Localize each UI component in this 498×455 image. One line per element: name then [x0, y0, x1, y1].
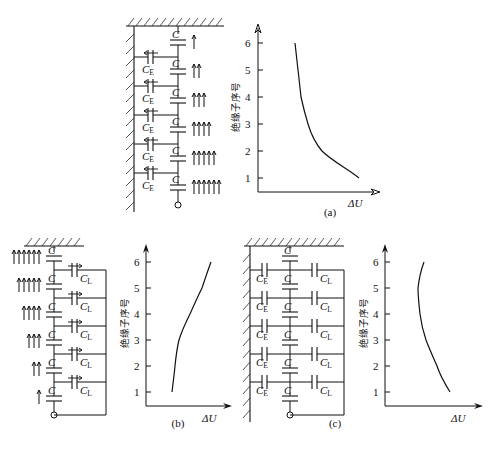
cap-label-series: C [48, 328, 56, 340]
cap-label-line: CL [80, 272, 92, 286]
y-ticks-b [146, 262, 151, 392]
y-tick-label: 4 [373, 308, 379, 320]
cap-label-line: CL [80, 356, 92, 370]
y-tick-label: 6 [373, 256, 379, 268]
y-tick-label: 1 [134, 386, 140, 398]
y-axis-title: 绝缘子序号 [230, 82, 241, 132]
data-curve-c [418, 262, 450, 392]
cap-label-line: CL [320, 328, 332, 342]
y-tick-label: 3 [134, 334, 140, 346]
circuit-diagram-a: C C C C C C [120, 12, 230, 217]
cap-label-line: CL [320, 300, 332, 314]
y-tick-label: 4 [245, 91, 251, 103]
panel-a-chart: 1 2 3 4 5 6 绝缘子序号 ΔU (a) [228, 14, 388, 222]
y-tick-label: 2 [373, 360, 379, 372]
cap-label-earth: CE [142, 121, 154, 135]
y-tick-label: 3 [245, 118, 251, 130]
current-arrows-a [192, 35, 221, 194]
y-tick-label: 5 [134, 282, 140, 294]
y-tick-label: 5 [373, 282, 379, 294]
cap-label-series: C [284, 328, 292, 340]
data-curve-b [172, 262, 211, 392]
y-tick-label: 5 [245, 64, 251, 76]
cap-label-earth: CE [142, 63, 154, 77]
y-ticks-c [385, 262, 390, 392]
cap-label-line: CL [320, 356, 332, 370]
panel-b-chart: 1 2 3 4 5 6 绝缘子序号 ΔU (b) [118, 234, 243, 434]
current-arrows-b [12, 250, 41, 404]
y-tick-label: 3 [373, 334, 379, 346]
cap-label-earth: CE [142, 179, 154, 193]
cap-label-line: CL [80, 384, 92, 398]
cap-label-series: C [172, 173, 180, 185]
cap-label-line: CL [320, 272, 332, 286]
circuit-diagram-b: C C C C C C [10, 232, 120, 427]
panel-b-circuit: C C C C C C [10, 232, 120, 427]
y-tick-label: 1 [245, 172, 251, 184]
cap-label-series: C [284, 356, 292, 368]
cap-label-series: C [284, 244, 292, 256]
y-tick-label: 4 [134, 308, 140, 320]
y-tick-label: 6 [134, 256, 140, 268]
ground-wall-left [126, 26, 134, 212]
cap-label-series: C [48, 356, 56, 368]
ground-wall-left [243, 246, 250, 422]
y-tick-label: 2 [245, 145, 251, 157]
cap-label-earth: CE [142, 150, 154, 164]
line-capacitors-c [290, 263, 344, 415]
cap-label-series: C [172, 144, 180, 156]
ground-hatch-top [244, 238, 344, 246]
data-curve-a [295, 43, 359, 178]
cap-label-series: C [284, 300, 292, 312]
circuit-diagram-c: C C C C C C CE C [238, 232, 358, 427]
cap-label-series: C [284, 384, 292, 396]
panel-c-chart: 1 2 3 4 5 6 绝缘子序号 ΔU (c) [355, 234, 495, 434]
panel-label-b: (b) [158, 417, 198, 429]
panel-label-c: (c) [315, 417, 355, 429]
ground-hatch-top [126, 18, 224, 26]
cap-label-series: C [48, 300, 56, 312]
y-axis-title: 绝缘子序号 [119, 298, 130, 348]
cap-label-earth: CE [142, 92, 154, 106]
x-axis-title: ΔU [450, 412, 466, 424]
cap-label-series: C [172, 57, 180, 69]
panel-label-a: (a) [310, 206, 350, 218]
chart-b: 1 2 3 4 5 6 绝缘子序号 ΔU [118, 234, 243, 434]
cap-label-series: C [172, 28, 180, 40]
cap-label-series: C [48, 272, 56, 284]
y-tick-label: 6 [245, 37, 251, 49]
cap-label-series: C [48, 244, 56, 256]
y-tick-label: 1 [373, 386, 379, 398]
y-axis-title: 绝缘子序号 [358, 298, 369, 348]
panel-c-circuit: C C C C C C CE C [238, 232, 358, 427]
cap-label-series: C [284, 272, 292, 284]
panel-a-circuit: C C C C C C [120, 12, 230, 217]
cap-label-series: C [48, 384, 56, 396]
chart-c: 1 2 3 4 5 6 绝缘子序号 ΔU [355, 234, 495, 434]
chart-a: 1 2 3 4 5 6 绝缘子序号 ΔU [228, 14, 388, 222]
cap-label-series: C [172, 115, 180, 127]
cap-label-series: C [172, 86, 180, 98]
x-axis-title: ΔU [201, 412, 217, 424]
y-ticks-a [258, 43, 263, 178]
cap-label-line: CL [80, 328, 92, 342]
cap-label-line: CL [80, 300, 92, 314]
y-tick-label: 2 [134, 360, 140, 372]
cap-label-line: CL [320, 384, 332, 398]
